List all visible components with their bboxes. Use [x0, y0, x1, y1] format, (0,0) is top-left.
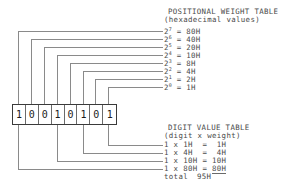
positional-weight-table-subtitle: (hexadecimal values): [164, 16, 260, 24]
wire-digit-4h: [83, 125, 163, 154]
binary-digit-box: 1 0 0 1 0 1 0 1: [12, 104, 117, 125]
digit-value-amount: 80H: [212, 164, 226, 174]
bit-cell: 0: [65, 105, 78, 124]
total-label: total: [164, 173, 188, 181]
total-value: 95H: [197, 172, 211, 181]
wire-digit-80h: [19, 125, 164, 170]
bit-cell: 1: [103, 105, 116, 124]
binary-weight-diagram: 1 0 0 1 0 1 0 1 POSITIONAL WEIGHT TABLE …: [0, 0, 292, 193]
bit-cell: 0: [26, 105, 39, 124]
digit-value-rows: 1 x 1H = 1H 1 x 4H = 4H 1 x 10H = 10H 1 …: [164, 141, 226, 181]
wire-bit7: [19, 32, 164, 105]
bit-cell: 1: [13, 105, 26, 124]
digit-value-table-subtitle: (digit x weight): [164, 132, 241, 140]
wire-digit-1h: [109, 125, 163, 146]
weight-row: 20 = 1H: [164, 83, 201, 91]
wire-bit0: [109, 88, 163, 105]
weight-equals: =: [172, 83, 186, 92]
weight-value: 1H: [186, 83, 196, 92]
wire-bit1: [96, 80, 163, 105]
digit-value-total-row: total95H: [164, 173, 226, 181]
connector-lines: [0, 0, 292, 193]
bit-cell: 1: [77, 105, 90, 124]
positional-weight-rows: 27 = 80H 26 = 40H 25 = 20H 24 = 10H 23 =…: [164, 27, 201, 91]
bit-cell: 0: [39, 105, 52, 124]
wire-digit-10h: [57, 125, 163, 162]
bit-cell: 0: [90, 105, 103, 124]
wire-bit3: [70, 64, 163, 105]
bit-cell: 1: [52, 105, 65, 124]
